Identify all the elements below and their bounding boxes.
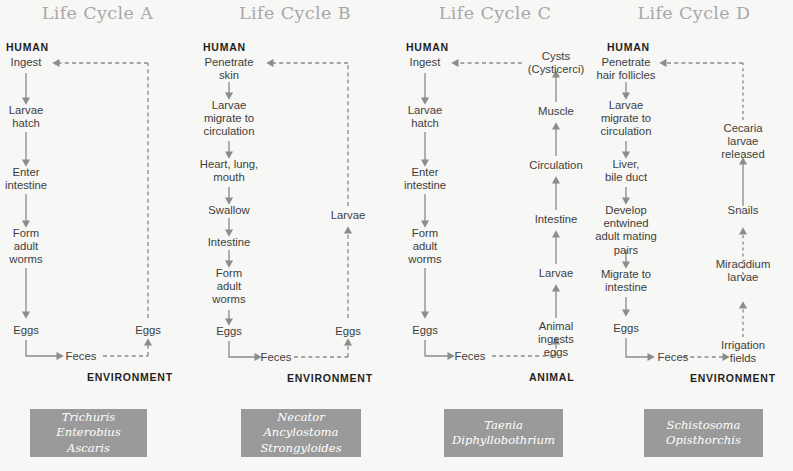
column-a-node-0: Ingest [11, 56, 42, 69]
column-d-node-env-1: Miracidium larvae [716, 258, 771, 284]
column-d-node-4: Migrate to intestine [601, 268, 651, 294]
column-d-node-1: Larvae migrate to circulation [601, 99, 652, 139]
column-a-node-2: Enter intestine [5, 166, 47, 192]
column-c-node-env-3: Circulation [529, 159, 582, 172]
column-d-host-label: HUMAN [607, 41, 650, 53]
column-c-node-4: Eggs [412, 324, 438, 337]
column-c-species-text: Taenia Diphyllobothrium [452, 418, 555, 449]
column-a-node-1: Larvae hatch [9, 104, 44, 130]
column-c-node-env-0: Animal ingests eggs [537, 320, 576, 360]
column-d-node-env-3: Cecaria larvae released [721, 122, 764, 162]
column-c-node-env-2: Intestine [535, 213, 578, 226]
column-d-node-5: Eggs [613, 322, 639, 335]
column-b-species-text: Necator Ancylostoma Strongyloides [260, 410, 341, 457]
column-b-node-6: Eggs [216, 325, 242, 338]
column-c-node-1: Larvae hatch [408, 104, 443, 130]
column-d-node-env-2: Snails [728, 204, 759, 217]
column-b-title: Life Cycle B [195, 3, 395, 23]
column-b-node-3: Swallow [208, 204, 249, 217]
column-d-environment-label: ENVIRONMENT [690, 372, 776, 384]
column-b-node-0: Penetrate skin [205, 56, 254, 82]
column-life-cycle-a: Life Cycle A HUMAN ENVIRONMENT Ingest La… [0, 0, 195, 471]
column-b-node-5: Form adult worms [212, 267, 245, 307]
column-d-species-text: Schistosoma Opisthorchis [666, 418, 741, 449]
column-d-species-box: Schistosoma Opisthorchis [644, 409, 763, 457]
column-d-node-3: Develop entwined adult mating pairs [595, 204, 657, 257]
column-c-node-env-5: Cysts (Cysticerci) [528, 50, 584, 76]
life-cycle-figure: Life Cycle A HUMAN ENVIRONMENT Ingest La… [0, 0, 793, 471]
column-a-node-env-0: Eggs [135, 324, 161, 337]
column-b-species-box: Necator Ancylostoma Strongyloides [241, 409, 361, 457]
column-a-node-3: Form adult worms [9, 227, 42, 267]
column-b-node-feces: Feces [261, 351, 292, 364]
column-b-node-env-0: Eggs [335, 325, 361, 338]
column-c-species-box: Taenia Diphyllobothrium [444, 409, 563, 457]
column-a-species-text: Trichuris Enterobius Ascaris [56, 410, 121, 457]
column-life-cycle-c: Life Cycle C HUMAN ANIMAL Ingest Larvae … [395, 0, 595, 471]
column-c-node-0: Ingest [410, 56, 441, 69]
column-life-cycle-d: Life Cycle D HUMAN ENVIRONMENT Penetrate… [595, 0, 793, 471]
column-b-node-4: Intestine [208, 236, 251, 249]
column-a-species-box: Trichuris Enterobius Ascaris [30, 409, 147, 457]
column-b-node-1: Larvae migrate to circulation [204, 99, 255, 139]
column-a-node-4: Eggs [13, 324, 39, 337]
column-a-node-feces: Feces [66, 350, 97, 363]
column-b-environment-label: ENVIRONMENT [287, 372, 373, 384]
column-a-environment-label: ENVIRONMENT [87, 371, 173, 383]
column-d-title: Life Cycle D [595, 3, 793, 23]
column-d-node-0: Penetrate hair follicles [596, 56, 655, 82]
column-b-node-env-1: Larvae [331, 209, 366, 222]
column-life-cycle-b: Life Cycle B HUMAN ENVIRONMENT Penetrate… [195, 0, 395, 471]
column-a-host-label: HUMAN [6, 41, 49, 53]
column-b-node-2: Heart, lung, mouth [200, 158, 258, 184]
column-a-title: Life Cycle A [0, 3, 195, 23]
column-d-node-env-0: Irrigation fields [721, 339, 765, 365]
column-c-node-env-1: Larvae [539, 267, 574, 280]
column-b-host-label: HUMAN [203, 41, 246, 53]
column-c-node-3: Form adult worms [408, 227, 441, 267]
column-d-node-feces: Feces [658, 351, 689, 364]
column-c-node-feces: Feces [455, 350, 486, 363]
column-c-host-label: HUMAN [406, 41, 449, 53]
column-c-node-env-4: Muscle [538, 105, 574, 118]
column-c-animal-label: ANIMAL [529, 371, 574, 383]
column-c-node-2: Enter intestine [404, 166, 446, 192]
column-c-title: Life Cycle C [395, 3, 595, 23]
column-d-node-2: Liver, bile duct [605, 158, 647, 184]
